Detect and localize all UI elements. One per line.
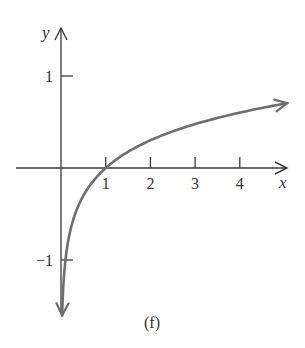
figure-caption: (f) xyxy=(144,314,160,332)
y-tick-label: 1 xyxy=(45,68,53,85)
x-axis xyxy=(16,162,287,174)
chart: 1234 1−1 y x (f) xyxy=(0,0,305,348)
x-axis-label: x xyxy=(278,173,287,192)
x-tick-label: 1 xyxy=(102,175,110,192)
y-axis-label: y xyxy=(40,23,50,42)
x-ticks: 1234 xyxy=(102,157,244,192)
y-tick-label: −1 xyxy=(36,252,53,269)
log-curve xyxy=(62,103,287,315)
x-tick-label: 2 xyxy=(146,175,154,192)
x-tick-label: 3 xyxy=(191,175,199,192)
x-tick-label: 4 xyxy=(236,175,244,192)
